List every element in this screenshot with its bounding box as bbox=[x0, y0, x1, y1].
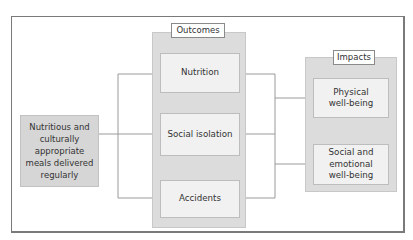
impact-physical-well-being: Physical well-being bbox=[313, 78, 389, 118]
impact-label: Physical well-being bbox=[322, 87, 380, 110]
outcome-label: Nutrition bbox=[181, 67, 219, 79]
outcome-nutrition: Nutrition bbox=[160, 53, 240, 93]
outcome-accidents: Accidents bbox=[160, 180, 240, 218]
input-meals-box: Nutritious and culturally appropriate me… bbox=[20, 115, 99, 187]
outcomes-title: Outcomes bbox=[171, 23, 225, 38]
input-meals-label: Nutritious and culturally appropriate me… bbox=[23, 121, 96, 181]
outcome-label: Accidents bbox=[179, 193, 221, 205]
impacts-title: Impacts bbox=[333, 50, 375, 65]
impact-label: Social and emotional well-being bbox=[318, 147, 384, 182]
outcome-social-isolation: Social isolation bbox=[160, 113, 240, 156]
outcome-label: Social isolation bbox=[167, 129, 232, 141]
impact-social-emotional-well-being: Social and emotional well-being bbox=[313, 144, 389, 185]
